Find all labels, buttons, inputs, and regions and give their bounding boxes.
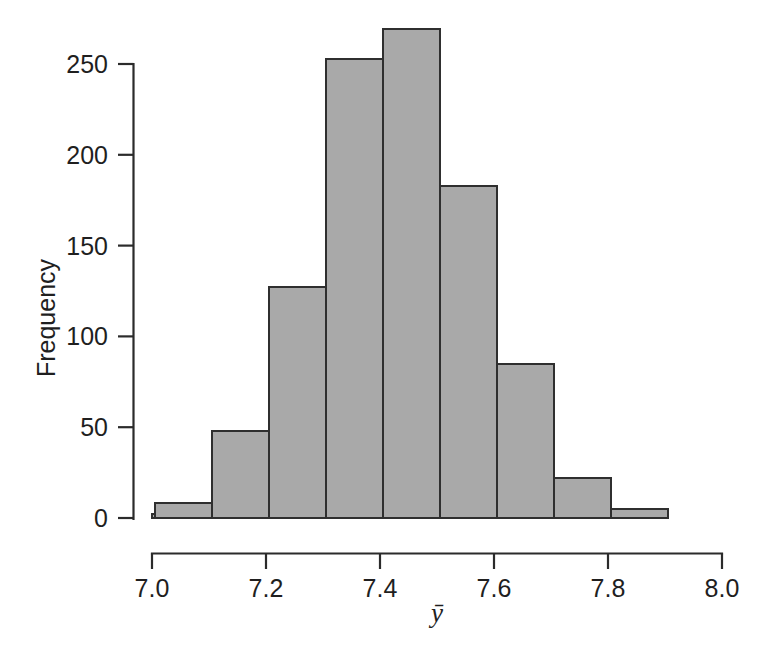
histogram-bar-6 xyxy=(440,186,497,518)
y-tick-label: 100 xyxy=(66,322,108,350)
histogram-bar-8 xyxy=(554,478,611,518)
y-tick-label: 0 xyxy=(94,504,108,532)
x-tick-label: 7.4 xyxy=(363,574,398,602)
histogram-plot: 050100150200250 7.07.27.47.67.88.0 Frequ… xyxy=(0,0,771,661)
histogram-bar-1 xyxy=(155,503,212,518)
y-tick-label: 50 xyxy=(80,413,108,441)
y-tick-label: 200 xyxy=(66,141,108,169)
y-tick-label: 250 xyxy=(66,50,108,78)
y-tick-label: 150 xyxy=(66,232,108,260)
x-tick-label: 7.6 xyxy=(477,574,512,602)
histogram-bar-2 xyxy=(212,431,269,518)
x-tick-label: 7.2 xyxy=(249,574,284,602)
x-axis-title: ȳ xyxy=(428,598,444,628)
x-tick-label: 7.0 xyxy=(135,574,170,602)
x-tick-label: 7.8 xyxy=(591,574,626,602)
histogram-bar-5 xyxy=(383,29,440,518)
histogram-bar-7 xyxy=(497,364,554,518)
y-axis-title: Frequency xyxy=(32,258,60,377)
histogram-figure: 050100150200250 7.07.27.47.67.88.0 Frequ… xyxy=(0,0,771,661)
histogram-bar-3 xyxy=(269,287,326,518)
histogram-bar-9 xyxy=(611,509,668,518)
x-tick-label: 8.0 xyxy=(705,574,740,602)
histogram-bar-4 xyxy=(326,59,383,518)
